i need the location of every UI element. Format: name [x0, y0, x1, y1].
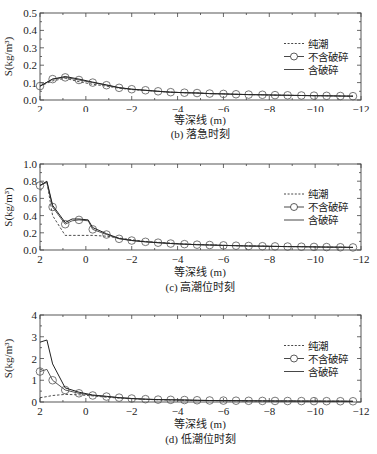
- y-axis-label: S(kg/m³): [2, 36, 15, 76]
- series-line: [40, 181, 353, 247]
- y-tick-label: 2: [32, 353, 38, 365]
- series-line: [40, 340, 353, 401]
- y-tick-label: 0.5: [23, 7, 37, 19]
- legend-label: 不含破碎: [308, 51, 349, 63]
- chart-d-caption: (d) 低潮位时刻: [12, 430, 377, 446]
- chart-c-caption: (c) 高潮位时刻: [12, 278, 377, 294]
- chart-panel-c: 20−2−4−6−8−10−120.00.20.40.60.81.0S(kg/m…: [0, 150, 377, 302]
- series-line: [40, 182, 353, 247]
- y-tick-label: 0.3: [23, 42, 37, 54]
- y-tick-label: 0.6: [23, 192, 37, 204]
- y-tick-label: 0.1: [23, 77, 37, 89]
- legend-label: 含破碎: [308, 366, 339, 378]
- y-axis-label: S(kg/m³): [2, 187, 15, 227]
- y-tick-label: 1.0: [23, 158, 37, 170]
- chart-b-plot: 20−2−4−6−8−10−120.00.10.20.30.40.5S(kg/m…: [0, 0, 377, 112]
- legend-label: 纯潮: [308, 188, 328, 200]
- series-line: [40, 77, 353, 97]
- y-tick-label: 0: [32, 396, 38, 408]
- y-tick-label: 0.8: [23, 175, 37, 187]
- chart-c-plot: 20−2−4−6−8−10−120.00.20.40.60.81.0S(kg/m…: [0, 150, 377, 264]
- chart-b-caption: (b) 落急时刻: [12, 125, 377, 141]
- series-line: [40, 182, 353, 247]
- y-tick-label: 1: [32, 374, 38, 386]
- legend-label: 纯潮: [308, 340, 328, 352]
- legend-label: 纯潮: [308, 38, 328, 50]
- y-tick-label: 0.4: [23, 210, 37, 222]
- y-axis-label: S(kg/m³): [2, 338, 15, 378]
- y-tick-label: 0.0: [23, 94, 37, 106]
- y-tick-label: 0.4: [23, 24, 37, 36]
- y-tick-label: 0.2: [23, 59, 37, 71]
- y-tick-label: 0.2: [23, 227, 37, 239]
- y-tick-label: 0.0: [23, 244, 37, 256]
- chart-d-xlabel: 等深线 (m): [0, 415, 377, 431]
- legend-label: 不含破碎: [308, 201, 349, 213]
- chart-c-xlabel: 等深线 (m): [0, 263, 377, 279]
- chart-panel-d: 20−2−4−6−8−10−1201234S(kg/m³)纯潮不含破碎含破碎 等…: [0, 302, 377, 454]
- legend-label: 含破碎: [308, 214, 339, 226]
- y-tick-label: 4: [32, 309, 38, 321]
- legend-label: 含破碎: [308, 64, 339, 76]
- legend-label: 不含破碎: [308, 353, 349, 365]
- chart-d-plot: 20−2−4−6−8−10−1201234S(kg/m³)纯潮不含破碎含破碎: [0, 302, 377, 416]
- chart-panel-b: 20−2−4−6−8−10−120.00.10.20.30.40.5S(kg/m…: [0, 0, 377, 150]
- y-tick-label: 3: [32, 331, 38, 343]
